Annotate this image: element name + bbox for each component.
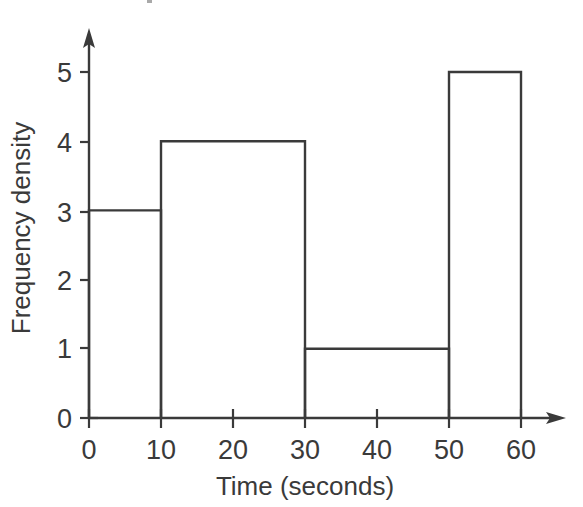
histogram-bar bbox=[89, 210, 161, 418]
x-tick-label-0: 0 bbox=[81, 435, 96, 465]
y-axis-title: Frequency density bbox=[6, 122, 36, 334]
x-axis-title: Time (seconds) bbox=[216, 471, 394, 501]
x-axis: 0 10 20 30 40 50 60 Time (seconds) bbox=[81, 409, 566, 501]
y-tick-label-2: 2 bbox=[57, 266, 72, 296]
histogram-bars bbox=[89, 72, 521, 418]
x-tick-label-30: 30 bbox=[290, 435, 320, 465]
histogram-chart: 0 1 2 3 4 5 Frequency density 0 10 20 bbox=[0, 0, 583, 507]
y-axis: 0 1 2 3 4 5 Frequency density bbox=[6, 28, 98, 434]
x-tick-label-20: 20 bbox=[218, 435, 248, 465]
chart-canvas: 0 1 2 3 4 5 Frequency density 0 10 20 bbox=[0, 0, 583, 507]
x-tick-label-50: 50 bbox=[434, 435, 464, 465]
histogram-bar bbox=[161, 141, 305, 418]
y-tick-label-0: 0 bbox=[57, 404, 72, 434]
x-tick-label-60: 60 bbox=[506, 435, 536, 465]
y-tick-label-1: 1 bbox=[57, 334, 72, 364]
histogram-bar bbox=[305, 349, 449, 418]
x-tick-label-10: 10 bbox=[146, 435, 176, 465]
x-tick-label-40: 40 bbox=[362, 435, 392, 465]
y-tick-label-5: 5 bbox=[57, 58, 72, 88]
y-tick-label-3: 3 bbox=[57, 198, 72, 228]
y-tick-label-4: 4 bbox=[57, 128, 72, 158]
histogram-bar bbox=[449, 72, 521, 418]
